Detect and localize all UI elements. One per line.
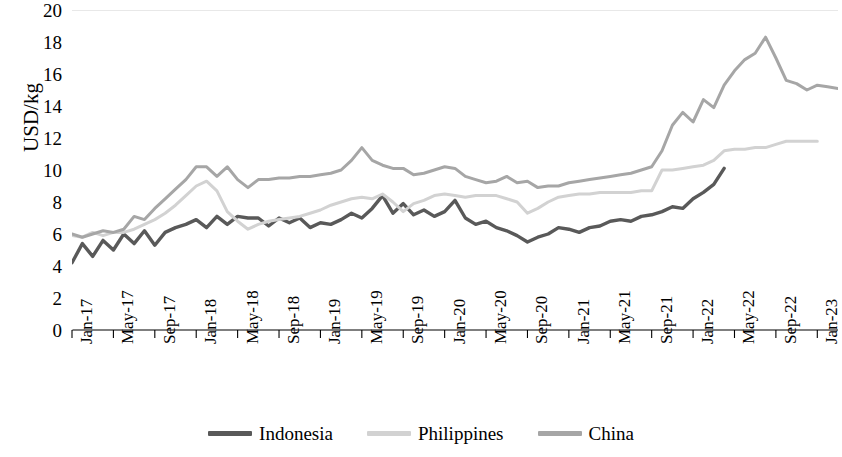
legend-swatch-icon xyxy=(208,431,252,436)
legend-label: Indonesia xyxy=(259,424,333,443)
legend-swatch-icon xyxy=(538,431,582,436)
legend-label: China xyxy=(589,424,634,443)
legend-item-china[interactable]: China xyxy=(538,424,634,443)
legend-item-indonesia[interactable]: Indonesia xyxy=(208,424,333,443)
x-axis xyxy=(71,329,839,351)
legend-swatch-icon xyxy=(367,431,411,436)
line-chart: USD/kg 20181614121086420 Jan-17May-17Sep… xyxy=(0,0,842,457)
chart-legend: IndonesiaPhilippinesChina xyxy=(0,424,842,443)
legend-item-philippines[interactable]: Philippines xyxy=(367,424,504,443)
legend-label: Philippines xyxy=(418,424,504,443)
x-axis-tick-labels: Jan-17May-17Sep-17Jan-18May-18Sep-18Jan-… xyxy=(0,0,842,457)
